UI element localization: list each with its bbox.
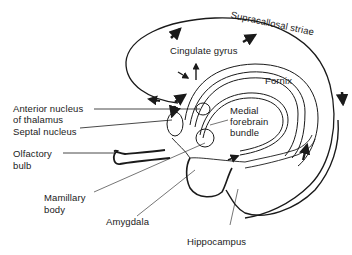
label-medial-forebrain-line3: bundle: [230, 127, 259, 138]
label-amygdala: Amygdala: [106, 216, 149, 227]
label-olfactory-bulb: Olfactory: [13, 148, 52, 159]
label-olfactory-bulb-line2: bulb: [13, 160, 31, 171]
arrow-icon: [178, 72, 188, 78]
amygdala-shape: [187, 158, 232, 197]
label-fornix: Fornix: [265, 75, 292, 86]
arrow-icon: [172, 106, 175, 116]
leader-medial-forebrain: [210, 120, 228, 125]
label-medial-forebrain-line2: forebrain: [230, 116, 268, 127]
septal-nucleus-shape: [167, 112, 183, 136]
leader-amygdala: [137, 170, 195, 216]
label-anterior-nucleus: Anterior nucleus: [13, 103, 83, 114]
arrow-icon: [228, 156, 238, 160]
arrow-icon: [171, 29, 180, 38]
label-mamillary-body: Mamillary: [44, 192, 86, 203]
label-mamillary-body-line2: body: [44, 204, 65, 215]
label-anterior-nucleus-line2: of thalamus: [13, 114, 63, 125]
label-septal-nucleus: Septal nucleus: [13, 126, 77, 137]
leader-septal-nucleus: [80, 120, 172, 128]
label-cingulate-gyrus: Cingulate gyrus: [170, 45, 238, 56]
arrow-icon: [175, 95, 185, 102]
label-medial-forebrain: Medial: [230, 105, 259, 116]
arrow-icon: [243, 35, 255, 42]
label-hippocampus: Hippocampus: [187, 236, 246, 247]
arrow-icon: [342, 92, 343, 104]
arrow-icon: [303, 145, 307, 160]
